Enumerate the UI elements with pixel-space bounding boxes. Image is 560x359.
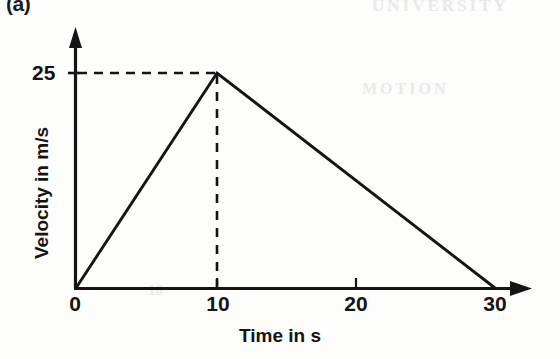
x-axis-tick-label-30: 30 [479,292,511,316]
x-axis-title: Time in s [188,325,372,347]
x-axis-tick-label-10: 10 [203,292,233,316]
x-axis-tick-label-20: 20 [341,292,371,316]
y-axis-title: Velocity in m/s [31,108,53,278]
x-axis [74,281,532,296]
y-axis [69,27,82,288]
x-axis-ticks [217,278,356,288]
y-axis-tick-label-25: 25 [32,61,55,85]
x-axis-tick-label-0: 0 [63,292,87,316]
velocity-curve [76,73,495,288]
